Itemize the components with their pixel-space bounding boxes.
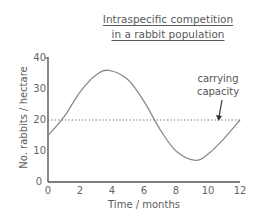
series-layer — [48, 70, 240, 160]
plot-area — [0, 0, 260, 224]
arrow-icon — [216, 100, 222, 121]
population-curve — [48, 70, 240, 160]
